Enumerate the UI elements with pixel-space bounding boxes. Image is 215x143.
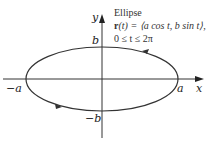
caption: Ellipse r(t) = ⟨a cos t, b sin t⟩, 0 ≤ t…	[114, 6, 206, 45]
x-axis-label: x	[196, 83, 202, 94]
label-pos-b: b	[92, 35, 99, 46]
caption-equation: r(t) = ⟨a cos t, b sin t⟩,	[114, 19, 206, 32]
equation-rest: (t) = ⟨a cos t, b sin t⟩,	[118, 20, 205, 31]
label-neg-b: −b	[85, 113, 101, 124]
y-axis-arrow-icon	[99, 14, 105, 23]
caption-title: Ellipse	[114, 6, 206, 19]
caption-domain: 0 ≤ t ≤ 2π	[114, 32, 206, 45]
label-pos-a: a	[177, 83, 184, 94]
y-axis-label: y	[92, 12, 98, 23]
label-neg-a: −a	[6, 83, 22, 94]
